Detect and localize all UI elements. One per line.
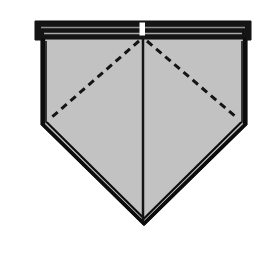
center-notch-icon xyxy=(140,23,146,36)
figure-root: Folded pentagon napkin diagram Line-art … xyxy=(0,0,264,253)
band-corner-cap-right xyxy=(245,21,251,40)
bottom-point-vertex xyxy=(142,221,145,224)
band-corner-cap-left xyxy=(35,21,41,40)
folded-pentagon-figure: Folded pentagon napkin diagram Line-art … xyxy=(0,0,264,253)
